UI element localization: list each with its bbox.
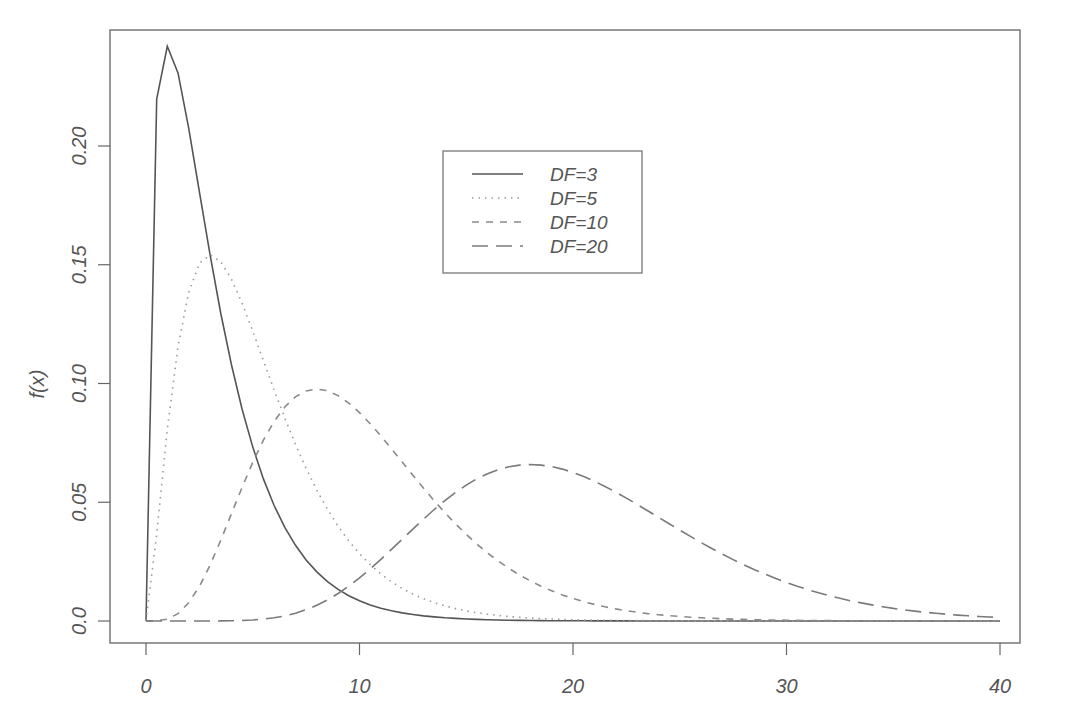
x-tick-label: 0 <box>140 675 151 697</box>
x-tick-label: 10 <box>348 675 370 697</box>
chi-square-density-chart: 0 10 20 30 40 0.0 0.05 0.10 0.15 0.20 f(… <box>0 0 1065 728</box>
y-axis <box>98 146 110 621</box>
legend-label-df3: DF=3 <box>550 164 597 185</box>
curve-df3 <box>146 46 1000 621</box>
y-tick-label: 0.05 <box>68 482 90 522</box>
x-axis <box>146 643 1000 655</box>
y-tick-label: 0.15 <box>68 244 90 284</box>
y-axis-label: f(x) <box>26 370 48 399</box>
legend-label-df10: DF=10 <box>550 212 608 233</box>
x-tick-labels: 0 10 20 30 40 <box>140 675 1011 697</box>
legend: DF=3 DF=5 DF=10 DF=20 <box>443 151 642 273</box>
y-tick-label: 0.0 <box>68 607 90 635</box>
x-tick-label: 40 <box>989 675 1011 697</box>
plot-curves <box>146 46 1000 621</box>
legend-box <box>443 151 642 273</box>
curve-df5 <box>146 255 1000 621</box>
y-tick-label: 0.20 <box>68 127 90 166</box>
x-tick-label: 20 <box>561 675 584 697</box>
curve-df20 <box>146 465 1000 622</box>
plot-frame <box>110 30 1020 643</box>
legend-label-df5: DF=5 <box>550 188 597 209</box>
legend-label-df20: DF=20 <box>550 236 608 257</box>
y-tick-labels: 0.0 0.05 0.10 0.15 0.20 <box>68 127 90 635</box>
x-tick-label: 30 <box>775 675 797 697</box>
y-tick-label: 0.10 <box>68 364 90 403</box>
